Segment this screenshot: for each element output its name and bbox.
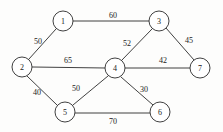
node-label-1: 1 — [61, 17, 65, 26]
nodes-group: 1234567 — [12, 11, 210, 122]
edge-4-6 — [121, 77, 153, 105]
edge-weight-5-6: 70 — [109, 117, 117, 126]
edge-2-4 — [32, 67, 105, 68]
edge-weight-1-3: 60 — [109, 11, 117, 20]
node-label-5: 5 — [63, 108, 67, 117]
node-7[interactable]: 7 — [190, 58, 210, 78]
edge-weight-3-4: 52 — [123, 39, 131, 48]
edge-weight-2-4: 65 — [64, 56, 72, 65]
graph-diagram: 60506540524542503070 1234567 — [0, 0, 223, 132]
edge-weight-3-7: 45 — [185, 36, 193, 45]
edge-weight-1-2: 50 — [34, 37, 42, 46]
edge-weight-4-6: 30 — [140, 85, 148, 94]
node-3[interactable]: 3 — [149, 11, 169, 31]
node-2[interactable]: 2 — [12, 57, 32, 77]
edge-weight-4-7: 42 — [159, 56, 167, 65]
graph-svg-canvas: 60506540524542503070 1234567 — [0, 0, 223, 132]
edge-weight-2-5: 40 — [33, 88, 41, 97]
node-4[interactable]: 4 — [105, 58, 125, 78]
node-1[interactable]: 1 — [53, 11, 73, 31]
node-label-4: 4 — [113, 64, 117, 73]
node-label-2: 2 — [20, 63, 24, 72]
node-label-6: 6 — [158, 108, 162, 117]
edge-weight-4-5: 50 — [72, 84, 80, 93]
node-label-3: 3 — [157, 17, 161, 26]
node-label-7: 7 — [198, 64, 202, 73]
node-5[interactable]: 5 — [55, 102, 75, 122]
node-6[interactable]: 6 — [150, 102, 170, 122]
edge-2-5 — [27, 76, 57, 105]
